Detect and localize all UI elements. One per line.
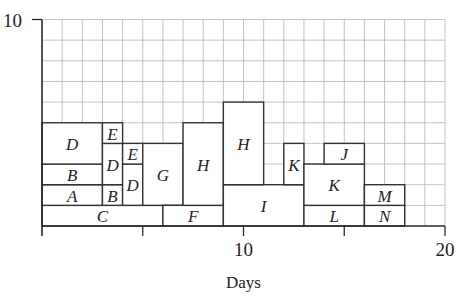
activity-block-m: M bbox=[364, 185, 404, 206]
activity-block-h: H bbox=[183, 123, 223, 206]
activity-block-i: I bbox=[223, 185, 304, 226]
activity-label: A bbox=[66, 187, 78, 206]
activity-block-c: C bbox=[42, 205, 163, 226]
activity-label: N bbox=[378, 207, 392, 226]
activity-label: F bbox=[187, 207, 199, 226]
y-tick-label: 10 bbox=[3, 10, 22, 31]
activity-label: G bbox=[157, 166, 169, 185]
activity-label: H bbox=[236, 135, 251, 154]
activity-block-d: D bbox=[42, 123, 102, 164]
activity-block-b: B bbox=[42, 164, 102, 185]
activity-label: B bbox=[107, 187, 118, 206]
activity-block-f: F bbox=[163, 205, 223, 226]
activity-label: D bbox=[65, 135, 79, 154]
x-tick-label: 20 bbox=[436, 239, 455, 260]
activity-label: H bbox=[196, 156, 211, 175]
activity-block-h: H bbox=[223, 102, 263, 185]
activity-block-e: E bbox=[102, 123, 122, 144]
activity-blocks: CABDBDEDEGFHIHKLKJNM bbox=[42, 102, 405, 226]
activity-block-a: A bbox=[42, 185, 102, 206]
activity-label: M bbox=[376, 187, 392, 206]
activity-label: D bbox=[105, 156, 119, 175]
activity-label: K bbox=[328, 176, 342, 195]
activity-block-g: G bbox=[143, 143, 183, 205]
activity-label: D bbox=[126, 176, 140, 195]
activity-label: K bbox=[287, 156, 301, 175]
activity-block-j: J bbox=[324, 143, 364, 164]
activity-block-b: B bbox=[102, 185, 122, 206]
activity-label: C bbox=[97, 207, 109, 226]
activity-block-e: E bbox=[123, 143, 143, 164]
activity-block-n: N bbox=[364, 205, 404, 226]
activity-block-k: K bbox=[284, 143, 304, 184]
activity-block-l: L bbox=[304, 205, 364, 226]
activity-label: L bbox=[328, 207, 338, 226]
activity-block-d: D bbox=[102, 143, 122, 184]
x-axis-title: Days bbox=[226, 273, 261, 292]
activity-label: E bbox=[106, 125, 118, 144]
activity-block-k: K bbox=[304, 164, 364, 205]
activity-label: B bbox=[67, 166, 78, 185]
activity-label: E bbox=[126, 145, 138, 164]
activity-block-d: D bbox=[123, 164, 143, 205]
resource-histogram-chart: CABDBDEDEGFHIHKLKJNM 101020Days bbox=[0, 0, 458, 296]
x-tick-label: 10 bbox=[234, 239, 253, 260]
